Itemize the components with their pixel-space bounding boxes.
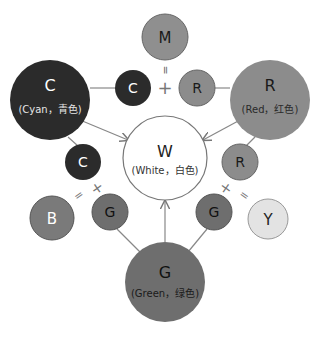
magenta-letter: M [159,29,172,47]
magenta-node: M [142,14,188,60]
green-label: (Green，绿色) [131,287,199,299]
red-big-node: R (Red，红色) [230,60,310,140]
line-g-left-to-green [117,229,140,252]
arrow-cyan-to-white [80,120,128,140]
top-plus-sign: + [157,77,172,98]
white-node: W (White，白色) [123,116,207,200]
white-letter: W [157,142,173,161]
red-small-top-node: R [179,70,215,106]
yellow-letter: Y [262,211,273,229]
arrow-red-to-white [203,120,240,140]
color-mixing-diagram: M = + C (Cyan，青色) C R R (Red，红色) W (Whit… [0,0,323,337]
cyan-label: (Cyan，青色) [18,103,81,115]
cyan-small-low-letter: C [78,154,88,170]
right-equals-sign: = [237,188,252,204]
green-small-right-node: G [196,194,232,230]
red-small-low-letter: R [235,154,245,170]
cyan-big-node: C (Cyan，青色) [10,60,90,140]
line-g-right-to-green [188,229,207,252]
green-small-left-node: G [92,194,128,230]
cyan-small-top-letter: C [128,80,138,96]
red-label: (Red，红色) [242,103,299,115]
line-red-to-lower-r [246,137,255,146]
green-small-right-letter: G [209,204,220,220]
red-small-top-letter: R [192,80,202,96]
red-letter: R [264,76,275,95]
blue-letter: B [47,210,57,228]
blue-node: B [30,196,74,240]
top-equals-sign: = [159,65,172,74]
green-small-left-letter: G [105,204,116,220]
yellow-node: Y [248,199,288,239]
left-equals-sign: = [71,188,86,204]
cyan-small-top-node: C [115,70,151,106]
white-label: (White，白色) [132,164,199,176]
red-small-low-node: R [222,144,258,180]
line-cyan-to-lower-c [68,137,78,146]
green-big-node: G (Green，绿色) [125,242,205,322]
cyan-small-low-node: C [65,144,101,180]
green-letter: G [159,263,171,282]
cyan-letter: C [44,76,55,95]
